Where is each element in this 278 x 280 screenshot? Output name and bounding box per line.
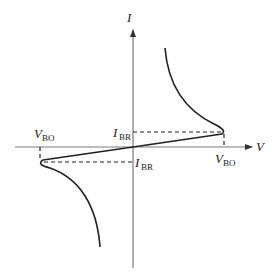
upper-negative-resistance-curve (165, 48, 224, 134)
i-axis-label: I (126, 10, 132, 25)
vbo-left-label-sub: BO (42, 133, 55, 143)
v-axis-label: V (256, 139, 266, 154)
ibr-lower-label-sub: BR (141, 162, 153, 172)
vi-characteristic-diagram: I V I BR I BR V BO V BO (0, 0, 278, 280)
vbo-right-label-sub: BO (223, 158, 236, 168)
lower-blocking-line (43, 147, 133, 160)
ibr-upper-label-main: I (112, 125, 118, 140)
vbo-left-label: V BO (34, 126, 55, 143)
ibr-lower-label-main: I (134, 155, 140, 170)
ibr-upper-label-sub: BR (119, 132, 131, 142)
ibr-upper-label: I BR (112, 125, 131, 142)
vbo-right-label: V BO (215, 151, 236, 168)
upper-blocking-line (133, 134, 222, 147)
lower-negative-resistance-curve (41, 160, 100, 247)
ibr-lower-label: I BR (134, 155, 153, 172)
